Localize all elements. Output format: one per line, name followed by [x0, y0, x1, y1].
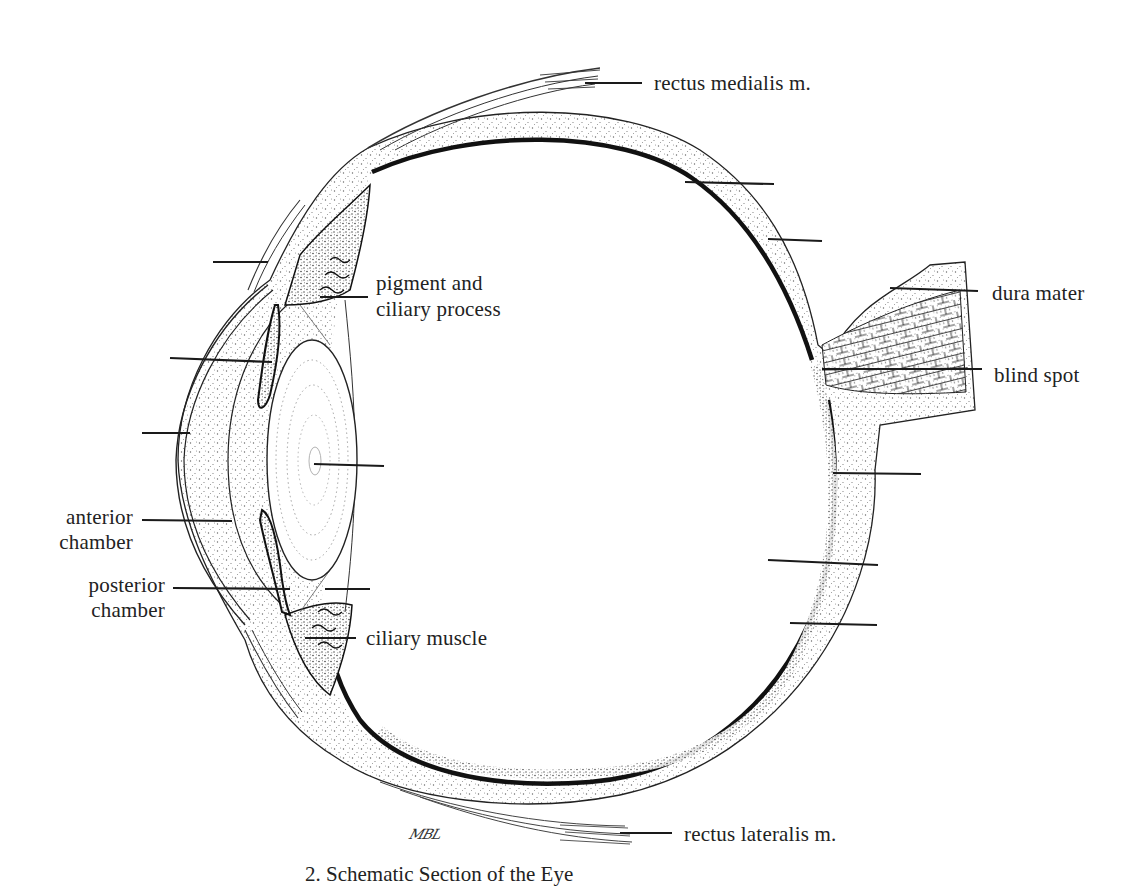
label-pigment-line1: pigment and	[376, 271, 483, 295]
artist-signature: MBL	[407, 826, 443, 842]
label-posterior-line1: posterior	[60, 573, 165, 597]
label-ciliary-muscle: ciliary muscle	[366, 626, 487, 650]
figure-caption: 2. Schematic Section of the Eye	[305, 862, 573, 886]
label-blind-spot: blind spot	[994, 363, 1079, 387]
label-pigment-line2: ciliary process	[376, 297, 501, 321]
label-dura-mater: dura mater	[992, 281, 1084, 305]
label-rectus-medialis: rectus medialis m.	[654, 71, 811, 95]
label-posterior-line2: chamber	[68, 598, 165, 622]
label-anterior-line2: chamber	[40, 530, 133, 554]
label-rectus-lateralis: rectus lateralis m.	[684, 822, 837, 846]
label-anterior-line1: anterior	[48, 505, 133, 529]
lens	[267, 340, 357, 580]
